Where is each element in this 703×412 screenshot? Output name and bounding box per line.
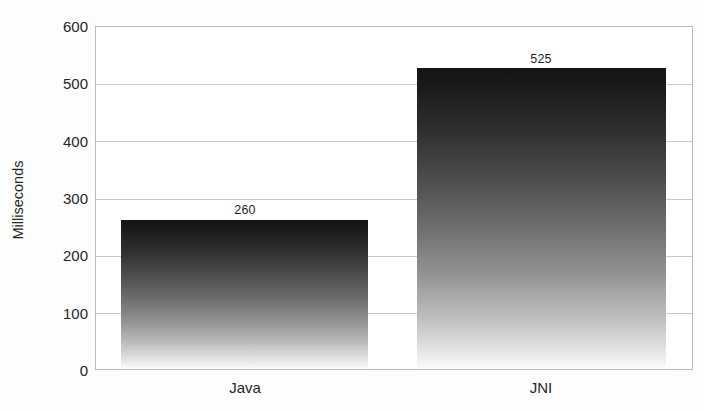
x-tick-label-java: Java bbox=[229, 379, 261, 396]
value-label-java: 260 bbox=[234, 203, 255, 217]
x-tick-label-jni: JNI bbox=[530, 379, 553, 396]
y-tick-label-200: 200 bbox=[63, 247, 88, 264]
y-tick-label-400: 400 bbox=[63, 133, 88, 150]
y-tick-label-100: 100 bbox=[63, 305, 88, 322]
plot-area bbox=[95, 26, 693, 370]
y-axis-title: Milliseconds bbox=[10, 161, 26, 240]
bar-jni[interactable] bbox=[417, 68, 666, 369]
y-tick-label-300: 300 bbox=[63, 190, 88, 207]
y-tick-label-600: 600 bbox=[63, 18, 88, 35]
bar-chart-figure: 600 500 400 300 200 100 0 Milliseconds 2… bbox=[0, 0, 703, 412]
value-label-jni: 525 bbox=[530, 52, 551, 66]
y-tick-label-500: 500 bbox=[63, 75, 88, 92]
bar-java[interactable] bbox=[121, 220, 368, 369]
y-tick-label-0: 0 bbox=[80, 362, 88, 379]
